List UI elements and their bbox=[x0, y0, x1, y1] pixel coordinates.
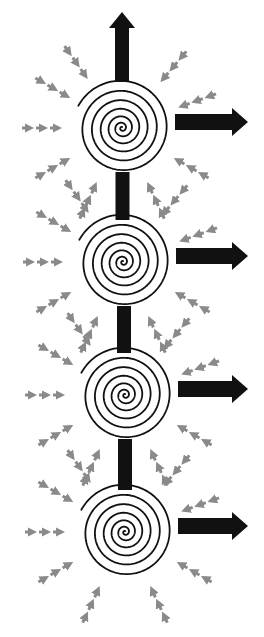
connectors-group bbox=[116, 172, 133, 490]
inflow-arrow-icon bbox=[204, 441, 211, 445]
inflow-arrow-icon bbox=[35, 174, 42, 178]
inflow-arrow-icon bbox=[51, 434, 58, 438]
inflow-arrow-icon bbox=[185, 507, 193, 510]
inflow-arrow-icon bbox=[198, 366, 206, 369]
inflow-arrow-icon bbox=[175, 466, 180, 473]
inflow-arrow-icon bbox=[81, 69, 86, 76]
inflow-arrow-icon bbox=[181, 51, 186, 57]
inflow-arrow-icon bbox=[76, 462, 81, 469]
vortex-4-spiral-icon bbox=[81, 485, 169, 574]
right-outflow-3 bbox=[178, 375, 248, 403]
inflow-arrow-icon bbox=[51, 489, 58, 493]
inflow-arrow-icon bbox=[189, 167, 196, 171]
inflow-arrow-icon bbox=[211, 498, 219, 501]
inflow-arrow-icon bbox=[36, 308, 43, 312]
inflow-arrow-icon bbox=[162, 345, 166, 353]
inflow-arrow-icon bbox=[60, 160, 67, 164]
vortex-3-spiral-icon bbox=[81, 348, 169, 437]
connector-3-4 bbox=[118, 439, 132, 490]
inflow-arrow-icon bbox=[83, 478, 87, 486]
inflow-arrow-icon bbox=[155, 198, 159, 206]
inflow-arrow-icon bbox=[89, 465, 93, 473]
inflow-arrow-icon bbox=[184, 318, 189, 324]
inflow-arrow-icon bbox=[166, 340, 171, 347]
inflow-arrow-icon bbox=[175, 329, 180, 336]
inflow-arrow-icon bbox=[80, 211, 84, 219]
inflow-arrow-icon bbox=[38, 345, 45, 349]
inflow-arrow-icon bbox=[38, 482, 45, 486]
inflow-arrow-icon bbox=[61, 226, 68, 230]
vortex-diagram bbox=[0, 0, 264, 637]
inflow-arrow-icon bbox=[74, 192, 79, 199]
right-outflow-2 bbox=[176, 242, 248, 270]
inflow-arrow-icon bbox=[190, 301, 197, 305]
right-outflow-1 bbox=[175, 108, 248, 136]
inflow-arrow-icon bbox=[172, 62, 177, 69]
diagram-canvas bbox=[0, 0, 264, 637]
inflow-arrow-icon bbox=[177, 160, 184, 164]
inflow-arrow-icon bbox=[178, 294, 185, 298]
inflow-arrow-icon bbox=[158, 602, 162, 610]
inflow-arrow-icon bbox=[48, 85, 55, 89]
inflow-arrow-icon bbox=[192, 434, 199, 438]
inflow-arrow-icon bbox=[83, 615, 87, 623]
inflow-arrow-icon bbox=[89, 602, 93, 610]
top-outflow bbox=[109, 12, 135, 82]
inflow-arrow-icon bbox=[183, 237, 191, 240]
inflow-arrow-icon bbox=[196, 233, 204, 236]
inflow-arrow-icon bbox=[209, 228, 217, 231]
inflow-arrow-icon bbox=[185, 370, 193, 373]
inflow-arrow-icon bbox=[198, 503, 206, 506]
connector-1-2 bbox=[116, 172, 130, 220]
inflow-arrow-icon bbox=[60, 92, 67, 96]
inflow-arrow-icon bbox=[81, 345, 85, 353]
inflow-arrow-icon bbox=[211, 361, 219, 364]
inflow-arrow-icon bbox=[195, 99, 203, 102]
inflow-arrow-icon bbox=[164, 207, 169, 214]
inflow-arrow-icon bbox=[192, 571, 199, 575]
inflow-arrow-icon bbox=[63, 359, 70, 363]
inflow-arrow-icon bbox=[63, 496, 70, 500]
inflow-arrow-icon bbox=[51, 571, 58, 575]
inflow-arrow-icon bbox=[93, 320, 97, 328]
inflow-arrow-icon bbox=[76, 325, 81, 332]
inflow-arrow-icon bbox=[38, 578, 45, 582]
inflow-arrow-icon bbox=[202, 308, 209, 312]
inflow-arrow-icon bbox=[51, 352, 58, 356]
inflow-arrow-icon bbox=[92, 186, 96, 194]
inflow-arrow-icon bbox=[180, 427, 187, 431]
inflow-arrow-icon bbox=[68, 313, 73, 320]
connector-2-3 bbox=[117, 306, 131, 353]
inflow-arrow-icon bbox=[180, 564, 187, 568]
inflow-arrow-icon bbox=[49, 301, 56, 305]
inflow-arrow-icon bbox=[152, 453, 156, 461]
inflow-arrow-icon bbox=[164, 615, 168, 623]
inflow-arrow-icon bbox=[201, 174, 208, 178]
inflow-arrow-icon bbox=[35, 78, 42, 82]
inflow-arrow-icon bbox=[182, 185, 187, 191]
inflow-arrow-icon bbox=[95, 590, 99, 598]
inflow-arrow-icon bbox=[68, 450, 73, 457]
right-outflow-4 bbox=[178, 512, 248, 540]
inflow-arrow-icon bbox=[149, 186, 153, 194]
inflow-arrow-icon bbox=[158, 465, 162, 473]
inflow-arrow-icon bbox=[63, 564, 70, 568]
inflow-arrow-icon bbox=[73, 58, 78, 65]
inflow-arrow-icon bbox=[95, 453, 99, 461]
vortex-1-spiral-icon bbox=[78, 81, 166, 170]
inflow-arrow-icon bbox=[36, 212, 43, 216]
inflow-arrow-icon bbox=[163, 73, 168, 80]
inflow-arrow-icon bbox=[49, 219, 56, 223]
inflow-arrow-icon bbox=[182, 103, 190, 106]
inflow-arrow-icon bbox=[166, 477, 171, 484]
inflow-arrow-icon bbox=[86, 198, 90, 206]
inflow-arrow-icon bbox=[63, 427, 70, 431]
inflow-arrow-icon bbox=[150, 320, 154, 328]
inflow-arrow-icon bbox=[208, 94, 216, 97]
inflow-arrow-icon bbox=[66, 180, 71, 187]
inflow-arrow-icon bbox=[48, 167, 55, 171]
inflow-arrow-icon bbox=[204, 578, 211, 582]
inflow-arrow-icon bbox=[65, 46, 70, 53]
inflow-arrow-icon bbox=[152, 590, 156, 598]
inflow-arrow-icon bbox=[61, 294, 68, 298]
